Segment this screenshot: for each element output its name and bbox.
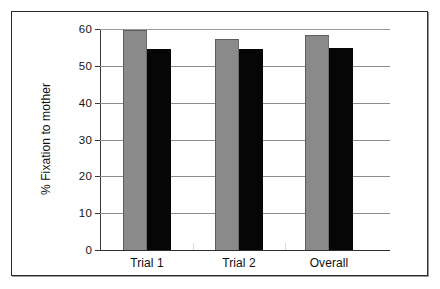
bar-overall-series-2	[329, 48, 353, 250]
x-axis-label-trial-1: Trial 1	[130, 256, 164, 270]
y-tick-mark-10	[95, 213, 100, 214]
gridline-0: 0	[100, 250, 390, 251]
bar-trial-1-series-1	[123, 30, 147, 250]
y-tick-label-0: 0	[85, 244, 92, 256]
x-axis-label-trial-2: Trial 2	[222, 256, 256, 270]
y-tick-mark-50	[95, 66, 100, 67]
bar-overall-series-1	[305, 35, 329, 250]
y-tick-mark-0	[95, 250, 100, 251]
x-axis-label-overall: Overall	[310, 256, 349, 270]
bar-trial-1-series-2	[147, 49, 171, 250]
y-tick-mark-20	[95, 176, 100, 177]
bar-chart: % Fixation to mother 0102030405060 Trial…	[0, 0, 440, 289]
y-tick-mark-60	[95, 29, 100, 30]
y-axis-title: % Fixation to mother	[39, 83, 53, 195]
x-axis-minor-tick	[285, 243, 286, 250]
y-tick-mark-30	[95, 140, 100, 141]
y-tick-label-40: 40	[79, 97, 92, 109]
figure-root: % Fixation to mother 0102030405060 Trial…	[0, 0, 440, 289]
y-tick-label-60: 60	[79, 23, 92, 35]
y-tick-mark-40	[95, 103, 100, 104]
y-tick-label-20: 20	[79, 170, 92, 182]
y-tick-label-50: 50	[79, 60, 92, 72]
y-tick-label-10: 10	[79, 207, 92, 219]
bar-trial-2-series-2	[239, 49, 263, 250]
x-axis-minor-tick	[193, 243, 194, 250]
y-tick-label-30: 30	[79, 134, 92, 146]
bar-trial-2-series-1	[215, 39, 239, 250]
plot-area: 0102030405060	[100, 29, 390, 250]
